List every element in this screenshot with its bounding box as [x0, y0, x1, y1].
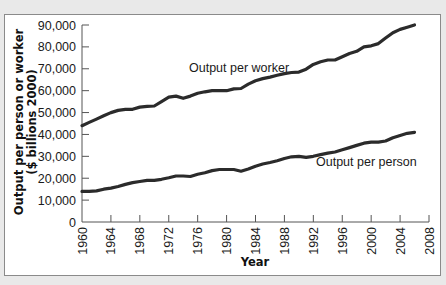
y-tick-label: 60,000 [38, 84, 76, 98]
x-axis-title: Year [240, 255, 270, 269]
line-chart: 010,00020,00030,00040,00050,00060,00070,… [0, 0, 446, 285]
y-tick-label: 90,000 [38, 19, 76, 33]
x-tick-label: 1964 [104, 227, 118, 255]
y-tick-label: 50,000 [38, 106, 76, 120]
y-axis-title-line1: Output per person or worker [12, 29, 26, 216]
series-label-person: Output per person [316, 155, 417, 169]
y-tick-label: 80,000 [38, 40, 76, 54]
x-tick-label: 1992 [307, 227, 321, 255]
series-label-worker: Output per worker [189, 61, 289, 75]
y-axis-title: Output per person or worker ($ billions … [12, 29, 39, 216]
y-axis-ticks: 010,00020,00030,00040,00050,00060,00070,… [38, 19, 89, 230]
x-tick-label: 1988 [278, 227, 292, 255]
axes [82, 25, 429, 222]
x-axis-ticks: 1960196419681972197619801984198819921996… [76, 215, 437, 255]
y-axis-title-line2: ($ billions 2000) [25, 69, 39, 174]
y-tick-label: 70,000 [38, 62, 76, 76]
series-line-output-per-worker [82, 25, 415, 126]
x-tick-label: 2008 [423, 227, 437, 255]
x-tick-label: 2004 [394, 227, 408, 255]
x-tick-label: 1968 [133, 227, 147, 255]
x-tick-label: 1996 [336, 227, 350, 255]
x-tick-label: 1980 [220, 227, 234, 255]
x-tick-label: 1960 [76, 227, 90, 255]
x-tick-label: 1972 [162, 227, 176, 255]
y-tick-label: 30,000 [38, 150, 76, 164]
y-tick-label: 20,000 [38, 172, 76, 186]
x-tick-label: 1976 [191, 227, 205, 255]
x-tick-label: 2000 [365, 227, 379, 255]
y-tick-label: 10,000 [38, 194, 76, 208]
x-tick-label: 1984 [249, 227, 263, 255]
y-tick-label: 40,000 [38, 128, 76, 142]
